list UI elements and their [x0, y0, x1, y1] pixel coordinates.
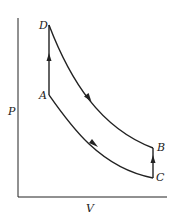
path-a-to-c: [49, 95, 153, 178]
x-axis-label: V: [86, 202, 95, 215]
label-b: B: [156, 141, 165, 154]
label-d: D: [38, 19, 48, 32]
label-c: C: [156, 171, 165, 184]
path-d-to-b: [49, 25, 153, 148]
arrow-up-icon: [47, 53, 52, 61]
y-axis-label: P: [7, 105, 16, 118]
label-a: A: [38, 89, 47, 102]
pv-diagram: D A B C P V: [0, 0, 178, 216]
arrow-up-icon: [151, 155, 156, 163]
